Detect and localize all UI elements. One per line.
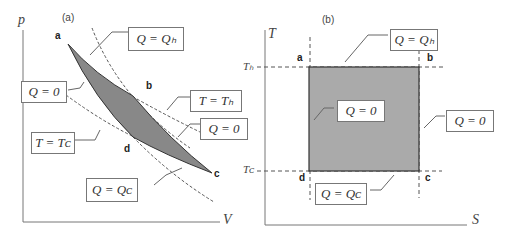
point-c: c [214,168,220,179]
point-a: a [55,30,61,41]
point-c: c [425,172,431,183]
label-q-0-right: Q = 0 [446,110,494,132]
label-q-qc: Q = Qᴄ [315,183,367,205]
panel-a-tag: (a) [62,12,74,23]
x-axis-label-s: S [472,212,479,228]
point-b: b [427,52,433,63]
label-q-0-right: Q = 0 [200,118,248,140]
x-axis-label-v: V [223,212,232,228]
panel-b-tag: (b) [322,14,334,25]
point-d: d [299,172,305,183]
label-t-th: T = Tₕ [190,90,242,112]
point-b: b [146,80,152,91]
y-axis-label-t: T [268,26,276,42]
label-q-qh: Q = Qₕ [128,27,184,51]
tc-tick: Tᴄ [243,163,254,175]
point-d: d [124,143,130,154]
y-axis-label-p: p [18,12,25,28]
label-q-0-left: Q = 0 [21,81,67,103]
label-q-qc: Q = Qᴄ [86,178,138,202]
label-q-qh: Q = Qₕ [390,29,438,51]
label-t-tc: T = Tᴄ [31,132,75,154]
th-tick: Tₕ [243,60,253,73]
point-a: a [297,52,303,63]
label-q-0-inner: Q = 0 [337,100,385,122]
